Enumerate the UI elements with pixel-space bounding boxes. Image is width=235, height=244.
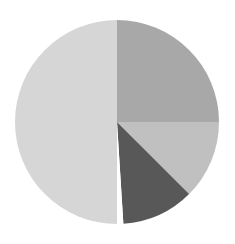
- pie-slice-5: [15, 20, 117, 224]
- pie-chart-canvas: [0, 0, 235, 244]
- pie-chart: [0, 0, 235, 244]
- pie-slice-1: [117, 20, 219, 122]
